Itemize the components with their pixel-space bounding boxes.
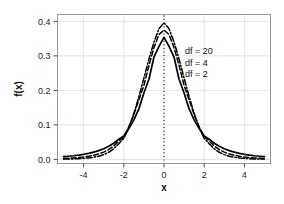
- annotation-label: df = 20: [185, 46, 213, 56]
- y-tick-label: 0.3: [38, 51, 51, 61]
- annotation-label: df = 2: [185, 69, 208, 79]
- x-tick-label: -2: [120, 170, 128, 180]
- y-tick-label: 0.1: [38, 120, 51, 130]
- t-distribution-density-plot: -4-20240.00.10.20.30.4 df = 20df = 4df =…: [0, 0, 284, 204]
- x-tick-label: -4: [80, 170, 88, 180]
- x-tick-label: 4: [242, 170, 247, 180]
- x-tick-label: 0: [161, 170, 166, 180]
- annotation-label: df = 4: [185, 58, 208, 68]
- y-tick-label: 0.0: [38, 155, 51, 165]
- y-axis-title: f(x): [13, 81, 24, 97]
- x-tick-label: 2: [202, 170, 207, 180]
- y-tick-label: 0.2: [38, 86, 51, 96]
- chart-figure: -4-20240.00.10.20.30.4 df = 20df = 4df =…: [0, 0, 284, 204]
- y-tick-label: 0.4: [38, 17, 51, 27]
- x-axis-title: x: [161, 182, 167, 193]
